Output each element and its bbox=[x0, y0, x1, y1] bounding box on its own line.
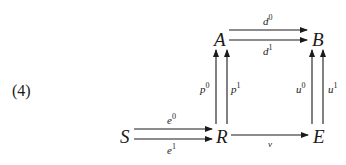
diagram-arrows bbox=[0, 0, 346, 165]
label-e1: e1 bbox=[167, 143, 176, 156]
label-d0: d0 bbox=[263, 14, 273, 27]
label-p1: p1 bbox=[231, 82, 241, 95]
label-e0: e0 bbox=[167, 113, 176, 126]
label-p0: p0 bbox=[200, 82, 210, 95]
label-d1: d1 bbox=[263, 44, 273, 57]
label-u1: u1 bbox=[328, 82, 338, 95]
label-u0: u0 bbox=[296, 82, 306, 95]
label-v: v bbox=[268, 140, 272, 149]
